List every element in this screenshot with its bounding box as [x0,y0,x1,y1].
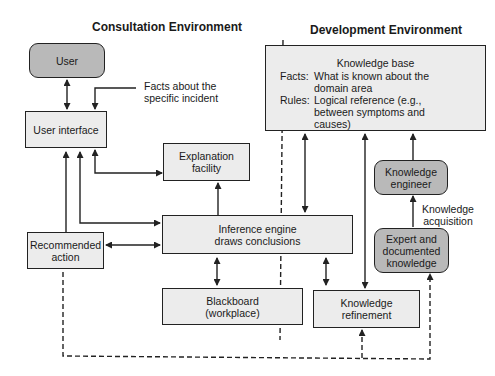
knowledge-engineer-node: Knowledge engineer [374,160,448,195]
user-label: User [56,55,78,67]
knowledge-base-node: Knowledge base Facts: What is known abou… [265,45,486,131]
consultation-environment-heading: Consultation Environment [92,20,242,34]
facts-key: Facts: [280,70,314,94]
knowledge-base-title: Knowledge base [266,57,485,69]
development-environment-heading: Development Environment [310,23,462,37]
user-interface-node: User interface [25,111,107,148]
user-interface-label: User interface [33,124,98,136]
knowledge-acquisition-annotation: Knowledge acquisition [422,203,474,227]
user-node: User [29,43,105,78]
recommended-action-node: Recommended action [27,232,104,269]
facts-incident-annotation: Facts about the specific incident [144,80,218,104]
explanation-facility-node: Explanation facility [163,143,250,181]
expert-knowledge-node: Expert and documented knowledge [374,228,449,273]
inference-engine-node: Inference engine draws conclusions [162,215,353,254]
rules-key: Rules: [280,94,314,130]
blackboard-node: Blackboard (workplace) [162,288,303,325]
knowledge-refinement-node: Knowledge refinement [313,290,420,328]
